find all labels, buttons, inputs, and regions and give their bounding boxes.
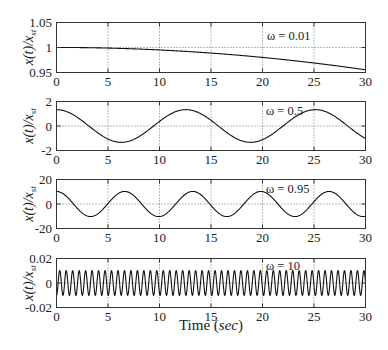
x-tick-label: 0 xyxy=(53,230,60,245)
x-tick-label: 25 xyxy=(308,309,321,324)
x-tick-label: 15 xyxy=(205,152,218,167)
x-tick-label: 30 xyxy=(359,74,372,89)
y-tick-label: -2 xyxy=(41,143,52,158)
x-axis-label-unit: sec xyxy=(219,317,238,333)
x-tick-label: 5 xyxy=(105,74,112,89)
figure-container: 0510152025300.9511.05x(t)/xstω = 0.01051… xyxy=(0,0,388,350)
x-tick-label: 0 xyxy=(53,74,60,89)
x-tick-label: 10 xyxy=(153,74,166,89)
y-axis-label: x(t)/xst xyxy=(21,29,38,66)
x-tick-label: 0 xyxy=(53,152,60,167)
x-tick-label: 30 xyxy=(359,152,372,167)
y-axis-label-main: x(t)/x xyxy=(21,270,37,301)
subplot-2: 051015202530-202x(t)/xstω = 0.5 xyxy=(21,94,372,167)
y-axis-label-main: x(t)/x xyxy=(21,191,37,222)
y-tick-label: 20 xyxy=(39,172,52,187)
y-axis-label: x(t)/xst xyxy=(21,265,38,302)
subplot-4: 051015202530-0.0200.02x(t)/xstω = 10 xyxy=(21,251,372,324)
grid xyxy=(57,180,366,229)
x-tick-label: 5 xyxy=(105,230,112,245)
x-tick-label: 0 xyxy=(53,309,60,324)
y-axis-label-subscript: st xyxy=(28,265,38,272)
x-axis-label-suffix: ) xyxy=(238,317,243,334)
x-axis-label: Time (sec) xyxy=(179,317,243,334)
y-tick-label: 0.95 xyxy=(29,65,52,80)
x-tick-label: 30 xyxy=(359,309,372,324)
subplot-1: 0510152025300.9511.05x(t)/xstω = 0.01 xyxy=(21,15,372,89)
x-tick-label: 20 xyxy=(256,230,269,245)
x-tick-label: 5 xyxy=(105,309,112,324)
x-tick-label: 10 xyxy=(153,230,166,245)
y-axis-label-main: x(t)/x xyxy=(21,35,37,66)
x-tick-label: 15 xyxy=(205,74,218,89)
x-axis-label-prefix: Time ( xyxy=(179,317,219,334)
y-tick-label: -0.02 xyxy=(25,300,52,315)
y-tick-label: 0 xyxy=(46,276,53,291)
x-tick-label: 25 xyxy=(308,152,321,167)
y-axis-label: x(t)/xst xyxy=(21,186,38,223)
omega-annotation: ω = 0.95 xyxy=(266,182,309,196)
grid xyxy=(57,259,366,308)
x-tick-label: 15 xyxy=(205,230,218,245)
x-tick-label: 10 xyxy=(153,152,166,167)
y-axis-label-subscript: st xyxy=(28,108,38,115)
x-tick-label: 10 xyxy=(153,309,166,324)
y-axis-label-main: x(t)/x xyxy=(21,113,37,144)
y-tick-label: 1 xyxy=(46,40,53,55)
x-tick-label: 20 xyxy=(256,152,269,167)
subplot-3: 051015202530-20020x(t)/xstω = 0.95 xyxy=(21,172,372,245)
x-tick-label: 25 xyxy=(308,74,321,89)
y-tick-label: 2 xyxy=(46,94,53,109)
x-tick-label: 30 xyxy=(359,230,372,245)
y-axis-label-subscript: st xyxy=(28,29,38,36)
x-tick-label: 25 xyxy=(308,230,321,245)
grid xyxy=(57,102,366,151)
omega-annotation: ω = 10 xyxy=(266,259,300,273)
y-tick-label: -20 xyxy=(35,221,52,236)
y-axis-label: x(t)/xst xyxy=(21,108,38,145)
omega-annotation: ω = 0.01 xyxy=(267,29,310,43)
figure: 0510152025300.9511.05x(t)/xstω = 0.01051… xyxy=(0,0,388,350)
y-axis-label-subscript: st xyxy=(28,186,38,193)
y-tick-label: 0 xyxy=(46,119,53,134)
x-tick-label: 20 xyxy=(256,309,269,324)
y-tick-label: 1.05 xyxy=(29,15,52,30)
x-tick-label: 5 xyxy=(105,152,112,167)
omega-annotation: ω = 0.5 xyxy=(266,104,303,118)
y-tick-label: 0 xyxy=(46,197,53,212)
x-tick-label: 20 xyxy=(256,74,269,89)
subplots: 0510152025300.9511.05x(t)/xstω = 0.01051… xyxy=(21,15,372,324)
y-tick-label: 0.02 xyxy=(29,251,52,266)
